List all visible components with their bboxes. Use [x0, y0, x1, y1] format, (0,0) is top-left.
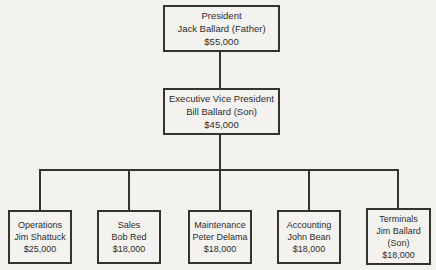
- position-title: Terminals: [379, 213, 418, 225]
- person-name: Bob Red: [111, 231, 146, 243]
- position-title: Maintenance: [194, 219, 246, 231]
- org-box-terminals: Terminals Jim Ballard (Son) $18,000: [366, 208, 431, 265]
- org-box-sales: Sales Bob Red $18,000: [97, 210, 161, 264]
- salary: $18,000: [293, 243, 326, 255]
- person-name: Jack Ballard (Father): [177, 22, 265, 35]
- connector-drop-sales: [128, 169, 130, 210]
- connector-drop-operations: [39, 169, 41, 210]
- salary: $45,000: [204, 118, 238, 131]
- org-box-operations: Operations Jim Shattuck $25,000: [8, 210, 72, 264]
- person-name: Peter Delama: [192, 231, 247, 243]
- org-box-evp: Executive Vice President Bill Ballard (S…: [163, 88, 280, 135]
- person-name: Jim Shattuck: [14, 231, 66, 243]
- connector-drop-terminals: [397, 169, 399, 208]
- org-box-accounting: Accounting John Bean $18,000: [277, 210, 341, 264]
- person-name: John Bean: [287, 231, 330, 243]
- salary: $18,000: [382, 249, 415, 261]
- salary: $18,000: [113, 243, 146, 255]
- position-title: Accounting: [287, 219, 332, 231]
- org-box-maintenance: Maintenance Peter Delama $18,000: [188, 210, 252, 264]
- position-title: Operations: [18, 219, 62, 231]
- position-title: President: [201, 9, 241, 22]
- org-chart: President Jack Ballard (Father) $55,000 …: [0, 0, 436, 270]
- salary: $55,000: [204, 35, 238, 48]
- salary: $18,000: [204, 243, 237, 255]
- connector-drop-maintenance: [219, 169, 221, 210]
- salary: $25,000: [24, 243, 57, 255]
- org-box-president: President Jack Ballard (Father) $55,000: [163, 5, 280, 52]
- position-title: Sales: [118, 219, 141, 231]
- position-title: Executive Vice President: [169, 92, 274, 105]
- person-name: Bill Ballard (Son): [186, 105, 257, 118]
- connector-president-evp: [219, 52, 221, 88]
- connector-evp-bus: [219, 135, 221, 171]
- person-name: Jim Ballard (Son): [370, 225, 427, 249]
- connector-drop-accounting: [308, 169, 310, 210]
